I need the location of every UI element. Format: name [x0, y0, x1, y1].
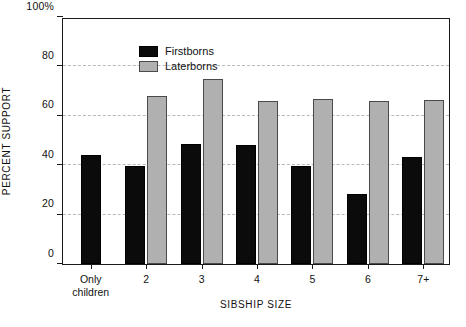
- y-tick-label-0: 0: [48, 247, 54, 259]
- y-tick-40: [57, 164, 63, 165]
- y-axis-title: PERCENT SUPPORT: [1, 87, 12, 195]
- bar-firstborns-7+: [402, 157, 422, 264]
- bar-laterborns-4: [258, 101, 278, 264]
- y-tick-60: [57, 115, 63, 116]
- y-tick-label-100: 100%: [26, 0, 54, 12]
- bar-firstborns-Only-children: [81, 155, 101, 264]
- bar-firstborns-4: [236, 145, 256, 264]
- x-tick-label-4: 5: [310, 273, 316, 286]
- y-tick-20: [57, 214, 63, 215]
- bar-chart-figure: PERCENT SUPPORT 020406080100% Only child…: [0, 0, 466, 327]
- x-tick-label-5: 6: [365, 273, 371, 286]
- y-tick-0: [57, 263, 63, 264]
- x-tick-0: [91, 264, 92, 269]
- bar-laterborns-6: [369, 101, 389, 264]
- x-tick-5: [368, 264, 369, 269]
- gridline-80: [63, 65, 449, 66]
- x-tick-4: [312, 264, 313, 269]
- x-tick-label-0: Only children: [72, 273, 109, 298]
- y-tick-label-20: 20: [42, 197, 54, 209]
- gridline-20: [63, 214, 449, 215]
- gridline-40: [63, 164, 449, 165]
- x-tick-2: [202, 264, 203, 269]
- x-tick-6: [423, 264, 424, 269]
- x-tick-1: [146, 264, 147, 269]
- legend-label-laterborns: Laterborns: [165, 60, 218, 72]
- legend-swatch-firstborns: [139, 46, 158, 57]
- x-axis-title: SIBSHIP SIZE: [62, 299, 450, 310]
- plot-area: 020406080100% Only children234567+ First…: [62, 18, 450, 265]
- y-tick-100: [57, 16, 63, 17]
- bar-firstborns-6: [347, 194, 367, 264]
- x-tick-label-6: 7+: [417, 273, 429, 286]
- bar-firstborns-3: [181, 144, 201, 264]
- legend-item-laterborns: Laterborns: [139, 60, 218, 72]
- legend-swatch-laterborns: [139, 61, 158, 72]
- y-tick-80: [57, 65, 63, 66]
- bar-firstborns-5: [291, 166, 311, 264]
- x-tick-label-1: 2: [143, 273, 149, 286]
- bar-laterborns-2: [147, 96, 167, 264]
- gridline-60: [63, 115, 449, 116]
- x-tick-label-2: 3: [199, 273, 205, 286]
- x-tick-label-3: 4: [254, 273, 260, 286]
- y-tick-label-60: 60: [42, 98, 54, 110]
- legend-item-firstborns: Firstborns: [139, 45, 218, 57]
- y-tick-label-80: 80: [42, 49, 54, 61]
- y-tick-label-40: 40: [42, 148, 54, 160]
- x-tick-3: [257, 264, 258, 269]
- bar-laterborns-5: [313, 99, 333, 264]
- chart-legend: Firstborns Laterborns: [139, 45, 218, 72]
- bar-laterborns-3: [203, 79, 223, 264]
- legend-label-firstborns: Firstborns: [165, 45, 214, 57]
- bar-firstborns-2: [125, 166, 145, 264]
- bar-laterborns-7+: [424, 100, 444, 264]
